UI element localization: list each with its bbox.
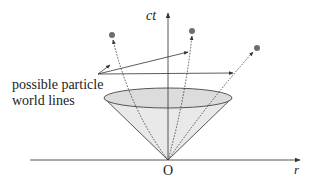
- annotation-line-2: world lines: [12, 93, 75, 108]
- ct-axis-label: ct: [146, 8, 157, 23]
- origin-label: O: [163, 163, 173, 178]
- annotation-arrows: [98, 52, 233, 74]
- annotation-line-1: possible particle: [12, 77, 103, 92]
- r-axis-label: r: [294, 162, 300, 177]
- light-cone-diagram: ct r O possible particle world lines: [0, 0, 317, 182]
- event-dot-middle: [189, 28, 195, 34]
- event-dot-right: [254, 45, 260, 51]
- event-dot-left: [109, 32, 115, 38]
